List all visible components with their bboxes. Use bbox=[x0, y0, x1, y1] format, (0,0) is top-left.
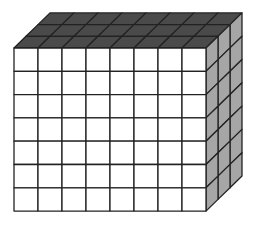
front-cube-face bbox=[158, 118, 182, 141]
front-cube-face bbox=[110, 141, 134, 164]
front-cube-face bbox=[38, 118, 62, 141]
front-cube-face bbox=[158, 95, 182, 118]
front-cube-face bbox=[182, 141, 206, 164]
front-cube-face bbox=[62, 188, 86, 211]
front-cube-face bbox=[86, 188, 110, 211]
front-cube-face bbox=[182, 71, 206, 94]
front-cube-face bbox=[182, 165, 206, 188]
front-cube-face bbox=[182, 48, 206, 71]
cube-prism-diagram bbox=[0, 0, 254, 227]
front-cube-face bbox=[38, 48, 62, 71]
front-cube-face bbox=[14, 141, 38, 164]
front-cube-face bbox=[110, 95, 134, 118]
front-cube-face bbox=[62, 71, 86, 94]
front-cube-face bbox=[14, 48, 38, 71]
front-cube-face bbox=[62, 48, 86, 71]
front-cube-face bbox=[134, 165, 158, 188]
front-cube-face bbox=[110, 165, 134, 188]
front-cube-face bbox=[86, 141, 110, 164]
front-cube-face bbox=[62, 95, 86, 118]
front-cube-face bbox=[14, 95, 38, 118]
front-cube-face bbox=[134, 95, 158, 118]
front-cube-face bbox=[14, 71, 38, 94]
front-cube-face bbox=[38, 188, 62, 211]
front-cube-face bbox=[62, 165, 86, 188]
front-cube-face bbox=[110, 71, 134, 94]
front-cube-face bbox=[86, 118, 110, 141]
front-cube-face bbox=[158, 188, 182, 211]
front-cube-face bbox=[62, 118, 86, 141]
front-cube-face bbox=[38, 71, 62, 94]
front-cube-face bbox=[182, 118, 206, 141]
right-side-face bbox=[206, 13, 242, 211]
front-cube-face bbox=[110, 188, 134, 211]
front-cube-face bbox=[182, 188, 206, 211]
front-cube-face bbox=[14, 118, 38, 141]
front-cube-face bbox=[110, 48, 134, 71]
front-cube-face bbox=[110, 118, 134, 141]
front-cube-face bbox=[134, 141, 158, 164]
front-cube-face bbox=[62, 141, 86, 164]
front-cube-face bbox=[86, 165, 110, 188]
front-cube-face bbox=[182, 95, 206, 118]
front-cube-face bbox=[158, 71, 182, 94]
front-cube-face bbox=[86, 48, 110, 71]
front-face bbox=[14, 48, 206, 211]
front-cube-face bbox=[158, 165, 182, 188]
front-cube-face bbox=[134, 118, 158, 141]
front-cube-face bbox=[134, 48, 158, 71]
front-cube-face bbox=[14, 165, 38, 188]
top-face bbox=[14, 13, 242, 48]
front-cube-face bbox=[134, 71, 158, 94]
front-cube-face bbox=[158, 48, 182, 71]
front-cube-face bbox=[158, 141, 182, 164]
front-cube-face bbox=[14, 188, 38, 211]
front-cube-face bbox=[134, 188, 158, 211]
front-cube-face bbox=[38, 141, 62, 164]
front-cube-face bbox=[38, 165, 62, 188]
front-cube-face bbox=[38, 95, 62, 118]
front-cube-face bbox=[86, 71, 110, 94]
rectangular-prism bbox=[0, 0, 254, 227]
front-cube-face bbox=[86, 95, 110, 118]
